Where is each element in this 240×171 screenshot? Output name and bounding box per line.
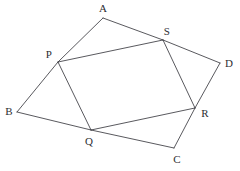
edge-Q-P: [58, 62, 91, 130]
vertex-label-P: P: [46, 49, 52, 60]
vertex-label-S: S: [164, 26, 170, 37]
vertex-label-Q: Q: [85, 136, 93, 147]
edge-B-P: [17, 62, 58, 112]
geometry-figure: A B C D P Q R S: [0, 0, 240, 171]
edge-S-R: [163, 40, 195, 108]
edge-S-D: [163, 40, 220, 63]
edge-R-C: [174, 108, 195, 148]
edge-P-A: [58, 18, 103, 62]
edge-A-S: [103, 18, 163, 40]
edge-P-S: [58, 40, 163, 62]
edge-R-Q: [91, 108, 195, 130]
edge-Q-B: [17, 112, 91, 130]
figure-canvas: [0, 0, 240, 171]
edge-C-Q: [91, 130, 174, 148]
vertex-label-A: A: [99, 3, 107, 14]
outer-quadrilateral-abcd: [17, 18, 220, 148]
vertex-label-D: D: [225, 58, 233, 69]
vertex-label-B: B: [5, 106, 13, 117]
vertex-label-C: C: [173, 154, 181, 165]
edge-D-R: [195, 63, 220, 108]
vertex-label-R: R: [201, 108, 209, 119]
inner-quadrilateral-pqrs: [58, 40, 195, 130]
